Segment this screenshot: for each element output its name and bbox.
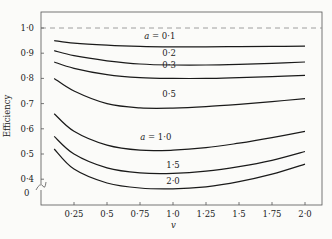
efficiency-chart: 0·250·50·751·01·251·51·752·0 1·00·90·80·… xyxy=(0,0,332,239)
curve-series xyxy=(54,41,305,47)
y-tick-label: 0·5 xyxy=(20,149,34,159)
y-axis-ticks: 1·00·90·80·70·60·50·4 xyxy=(20,23,44,184)
curve-label: 0·3 xyxy=(162,60,176,70)
curve-label: 2·0 xyxy=(166,176,180,186)
y-tick-label: 0·7 xyxy=(20,99,34,109)
curve-label: 0·2 xyxy=(162,48,176,58)
y-tick-label: 0·6 xyxy=(20,124,34,134)
curve-label: 0·5 xyxy=(162,89,176,99)
y-tick-label: 0·9 xyxy=(20,48,34,58)
x-tick-label: 0·25 xyxy=(65,209,84,219)
x-tick-label: 0·75 xyxy=(131,209,150,219)
x-tick-label: 0·5 xyxy=(100,209,114,219)
curve-series xyxy=(54,51,305,65)
x-axis-ticks: 0·250·50·751·01·251·51·752·0 xyxy=(65,202,312,219)
x-tick-label: 1·75 xyxy=(263,209,282,219)
x-tick-label: 2·0 xyxy=(298,209,312,219)
x-tick-label: 1·0 xyxy=(166,209,180,219)
y-break-zero-label: 0 xyxy=(24,188,29,198)
curve-series xyxy=(54,114,305,151)
x-axis-title: v xyxy=(171,220,176,230)
y-tick-label: 0·8 xyxy=(20,73,34,83)
curve-label: a = 0·1 xyxy=(144,31,175,41)
x-tick-label: 1·25 xyxy=(197,209,216,219)
plot-frame xyxy=(41,12,322,205)
y-tick-label: 1·0 xyxy=(20,23,34,33)
y-tick-label: 0·4 xyxy=(20,174,34,184)
x-tick-label: 1·5 xyxy=(232,209,246,219)
curve-series xyxy=(54,78,305,108)
y-axis-title: Efficiency xyxy=(2,95,12,138)
curve-series xyxy=(54,62,305,78)
curve-label: a = 1·0 xyxy=(140,132,171,142)
curve-label: 1·5 xyxy=(166,160,180,170)
